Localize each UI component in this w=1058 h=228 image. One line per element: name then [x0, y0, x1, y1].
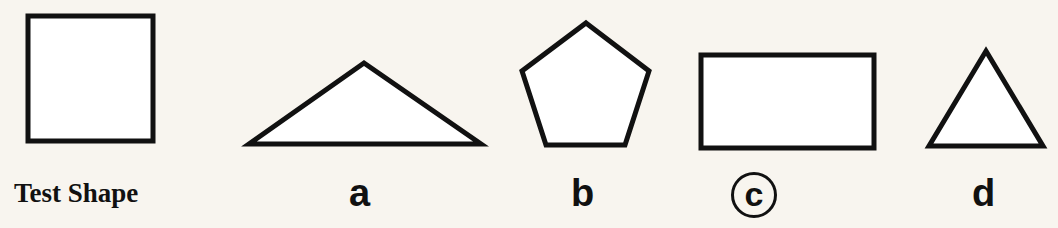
- option-c-label: c: [745, 177, 764, 211]
- option-a-label[interactable]: a: [349, 172, 370, 215]
- test-shape-square: [28, 16, 153, 141]
- option-a-shape[interactable]: [249, 63, 481, 144]
- option-c-selected-marker[interactable]: c: [731, 172, 777, 218]
- option-b-label[interactable]: b: [571, 172, 594, 215]
- option-b-shape[interactable]: [522, 23, 649, 145]
- option-d-shape[interactable]: [929, 51, 1043, 146]
- option-c-shape[interactable]: [701, 55, 874, 148]
- shapes-canvas: [0, 0, 1058, 228]
- option-d-label[interactable]: d: [972, 172, 995, 215]
- test-shape-label: Test Shape: [14, 178, 138, 209]
